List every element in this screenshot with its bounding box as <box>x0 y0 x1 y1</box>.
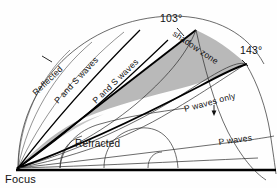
focus-point <box>16 166 19 169</box>
label-p-waves-only: P waves only <box>183 90 237 113</box>
label-angle-143: 143° <box>240 44 263 56</box>
label-refracted: Refracted <box>75 138 120 149</box>
label-focus: Focus <box>5 173 36 185</box>
leader-reflected <box>42 56 52 62</box>
seismic-shadow-zone-diagram: 103° 143° Focus Reflected P and S waves … <box>0 0 277 188</box>
surface-arc-lower-right <box>246 64 276 174</box>
diagram-canvas: 103° 143° Focus Reflected P and S waves … <box>0 0 277 188</box>
label-angle-103: 103° <box>160 12 183 24</box>
